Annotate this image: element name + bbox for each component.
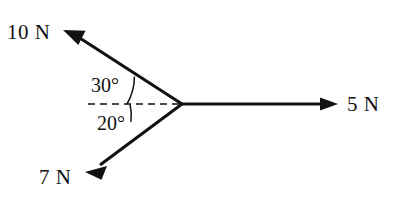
angle-label-20: 20° <box>97 113 125 133</box>
vector-label-5n: 5 N <box>347 94 379 115</box>
vector-arrowhead-5n <box>320 98 338 111</box>
vector-arrowhead-10n <box>63 30 86 45</box>
vector-arrow-10n <box>63 30 182 104</box>
angle-arc-20 <box>130 104 131 122</box>
vector-label-7n: 7 N <box>39 167 71 188</box>
vector-label-10n: 10 N <box>7 22 50 43</box>
angle-label-30: 30° <box>91 75 119 95</box>
vector-arrow-5n <box>182 98 338 111</box>
vector-arrowhead-7n <box>85 166 107 180</box>
angle-arc-30 <box>127 77 134 105</box>
force-vector-diagram: 10 N 5 N 7 N 30° 20° <box>0 0 402 204</box>
